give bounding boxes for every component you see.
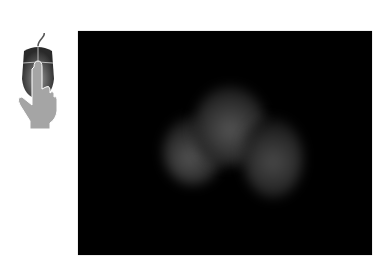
render-lobe-right bbox=[243, 118, 303, 198]
render-viewport[interactable] bbox=[78, 31, 372, 255]
mouse-click-icon bbox=[12, 33, 60, 129]
